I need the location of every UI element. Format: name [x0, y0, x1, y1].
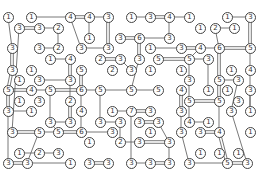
island[interactable]: 6	[214, 43, 225, 54]
island[interactable]: 3	[115, 54, 126, 65]
island[interactable]: 3	[134, 117, 145, 128]
island[interactable]: 1	[26, 106, 37, 117]
island[interactable]: 3	[126, 158, 137, 169]
island[interactable]: 1	[214, 148, 225, 159]
island[interactable]: 4	[245, 65, 256, 76]
island[interactable]: 1	[195, 148, 206, 159]
island[interactable]: 4	[164, 12, 175, 23]
island[interactable]: 3	[195, 127, 206, 138]
island[interactable]: 3	[126, 65, 137, 76]
island[interactable]: 1	[145, 65, 156, 76]
island[interactable]: 3	[65, 117, 76, 128]
island[interactable]: 4	[176, 85, 187, 96]
island[interactable]: 3	[226, 106, 237, 117]
island[interactable]: 3	[164, 158, 175, 169]
island[interactable]: 3	[153, 117, 164, 128]
island[interactable]: 5	[153, 85, 164, 96]
island[interactable]: 2	[53, 43, 64, 54]
island[interactable]: 1	[226, 65, 237, 76]
island[interactable]: 7	[126, 106, 137, 117]
island[interactable]: 3	[3, 106, 14, 117]
island[interactable]: 3	[233, 75, 244, 86]
island[interactable]: 4	[26, 85, 37, 96]
island[interactable]: 3	[245, 12, 256, 23]
island[interactable]: 5	[53, 127, 64, 138]
island[interactable]: 1	[222, 85, 233, 96]
island[interactable]: 3	[184, 75, 195, 86]
island[interactable]: 1	[176, 65, 187, 76]
island[interactable]: 5	[95, 85, 106, 96]
island[interactable]: 1	[229, 23, 240, 34]
island[interactable]: 3	[164, 33, 175, 44]
island[interactable]: 1	[126, 12, 137, 23]
island[interactable]: 1	[245, 106, 256, 117]
island[interactable]: 1	[26, 65, 37, 76]
island[interactable]: 2	[53, 23, 64, 34]
island[interactable]: 3	[103, 43, 114, 54]
island[interactable]: 3	[34, 23, 45, 34]
island[interactable]: 4	[195, 43, 206, 54]
island[interactable]: 3	[34, 75, 45, 86]
island[interactable]: 6	[134, 33, 145, 44]
island[interactable]: 3	[242, 158, 253, 169]
island[interactable]: 3	[176, 127, 187, 138]
island[interactable]: 3	[145, 12, 156, 23]
island[interactable]: 1	[45, 54, 56, 65]
island[interactable]: 5	[222, 158, 233, 169]
island[interactable]: 3	[22, 158, 33, 169]
island[interactable]: 6	[76, 127, 87, 138]
island[interactable]: 3	[176, 106, 187, 117]
island[interactable]: 3	[7, 65, 18, 76]
island[interactable]: 1	[203, 85, 214, 96]
island[interactable]: 3	[103, 12, 114, 23]
island[interactable]: 3	[34, 43, 45, 54]
island[interactable]: 3	[7, 127, 18, 138]
island[interactable]: 3	[184, 158, 195, 169]
island[interactable]: 1	[107, 106, 118, 117]
island[interactable]: 1	[145, 43, 156, 54]
island[interactable]: 5	[184, 96, 195, 107]
island[interactable]: 4	[214, 127, 225, 138]
island[interactable]: 1	[14, 148, 25, 159]
island[interactable]: 3	[115, 117, 126, 128]
island[interactable]: 1	[26, 12, 37, 23]
island[interactable]: 5	[214, 96, 225, 107]
island[interactable]: 3	[145, 158, 156, 169]
island[interactable]: 3	[65, 75, 76, 86]
island[interactable]: 5	[245, 43, 256, 54]
island[interactable]: 3	[84, 158, 95, 169]
island[interactable]: 5	[3, 85, 14, 96]
island[interactable]: 1	[195, 23, 206, 34]
island[interactable]: 5	[45, 85, 56, 96]
island[interactable]: 4	[184, 117, 195, 128]
island[interactable]: 4	[84, 12, 95, 23]
island[interactable]: 4	[76, 106, 87, 117]
island[interactable]: 3	[145, 106, 156, 117]
island[interactable]: 1	[203, 117, 214, 128]
island[interactable]: 3	[134, 137, 145, 148]
island[interactable]: 3	[233, 96, 244, 107]
island[interactable]: 1	[84, 137, 95, 148]
island[interactable]: 1	[14, 75, 25, 86]
island[interactable]: 3	[134, 54, 145, 65]
island[interactable]: 1	[184, 12, 195, 23]
island[interactable]: 2	[95, 54, 106, 65]
island[interactable]: 2	[210, 23, 221, 34]
island[interactable]: 5	[184, 54, 195, 65]
island[interactable]: 4	[65, 12, 76, 23]
island[interactable]: 5	[214, 75, 225, 86]
island[interactable]: 5	[126, 85, 137, 96]
island[interactable]: 3	[34, 96, 45, 107]
island[interactable]: 3	[3, 158, 14, 169]
island[interactable]: 1	[14, 96, 25, 107]
island[interactable]: 3	[95, 117, 106, 128]
island[interactable]: 5	[153, 54, 164, 65]
island[interactable]: 3	[115, 33, 126, 44]
island[interactable]: 3	[107, 127, 118, 138]
island[interactable]: 3	[53, 148, 64, 159]
island[interactable]: 1	[84, 33, 95, 44]
island[interactable]: 1	[145, 127, 156, 138]
island[interactable]: 5	[76, 65, 87, 76]
island[interactable]: 1	[233, 148, 244, 159]
island[interactable]: 6	[76, 85, 87, 96]
